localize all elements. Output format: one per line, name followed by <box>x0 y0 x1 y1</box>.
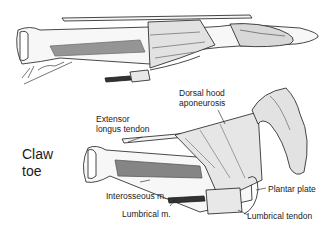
title-line-1: Claw <box>22 146 53 163</box>
artist-signature <box>22 62 72 84</box>
label-extensor-longus: Extensor longus tendon <box>96 114 149 134</box>
label-lumbrical-tendon: Lumbrical tendon <box>247 211 312 221</box>
label-dorsal-hood: Dorsal hood aponeurosis <box>179 88 225 108</box>
label-plantar-plate: Plantar plate <box>268 184 316 194</box>
figure-title: Claw toe <box>22 146 53 180</box>
normal-toe-drawing <box>17 15 319 82</box>
label-lumbrical-m: Lumbrical m. <box>122 209 171 219</box>
title-line-2: toe <box>22 163 53 180</box>
label-interosseous: Interosseous m. <box>106 191 166 201</box>
anatomy-figure: Claw toe Dorsal hood aponeurosis Extenso… <box>0 0 331 227</box>
